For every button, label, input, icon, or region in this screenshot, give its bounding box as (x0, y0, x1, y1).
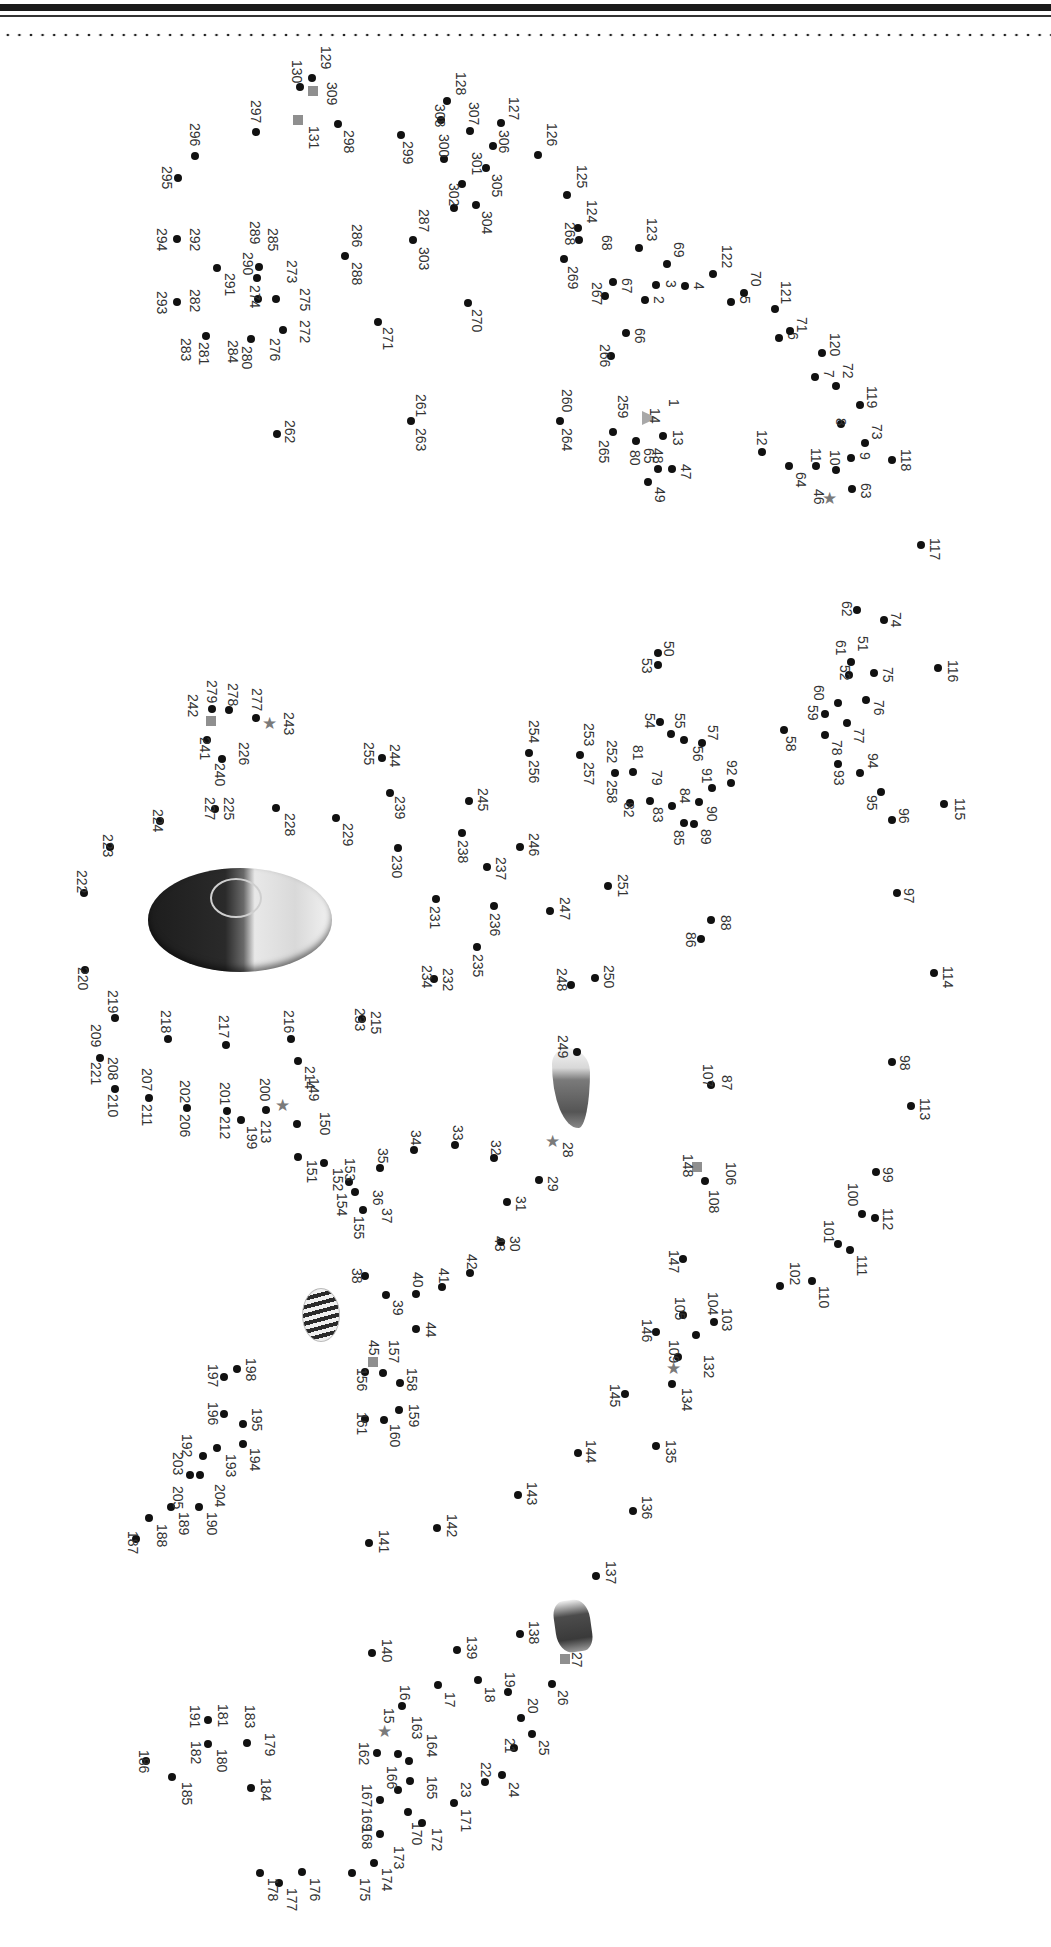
dot-point[interactable] (451, 1141, 459, 1149)
dot-point[interactable] (786, 327, 794, 335)
dot-point[interactable] (253, 274, 261, 282)
dot-point[interactable] (856, 401, 864, 409)
dot-point[interactable] (846, 1246, 854, 1254)
dot-point[interactable] (497, 1238, 505, 1246)
dot-point[interactable] (576, 751, 584, 759)
dot-point[interactable] (204, 1716, 212, 1724)
dot-point[interactable] (412, 1290, 420, 1298)
dot-point[interactable] (81, 966, 89, 974)
dot-point[interactable] (517, 1714, 525, 1722)
dot-point[interactable] (654, 649, 662, 657)
dot-point[interactable] (775, 334, 783, 342)
dot-point[interactable] (621, 1390, 629, 1398)
dot-point[interactable] (376, 1796, 384, 1804)
dot-point[interactable] (287, 1035, 295, 1043)
dot-point[interactable] (450, 1799, 458, 1807)
dot-point[interactable] (877, 788, 885, 796)
dot-point[interactable] (740, 289, 748, 297)
dot-point[interactable] (635, 244, 643, 252)
dot-point[interactable] (641, 296, 649, 304)
dot-point[interactable] (239, 1420, 247, 1428)
dot-point[interactable] (832, 382, 840, 390)
dot-point[interactable] (204, 1740, 212, 1748)
dot-point[interactable] (293, 1120, 301, 1128)
dot-point[interactable] (510, 1744, 518, 1752)
dot-point[interactable] (233, 1365, 241, 1373)
dot-point[interactable] (412, 1325, 420, 1333)
dot-point[interactable] (111, 1085, 119, 1093)
dot-point[interactable] (497, 119, 505, 127)
dot-point[interactable] (365, 1539, 373, 1547)
dot-point[interactable] (847, 658, 855, 666)
dot-point[interactable] (680, 819, 688, 827)
dot-point[interactable] (376, 1164, 384, 1172)
dot-point[interactable] (575, 236, 583, 244)
dot-point[interactable] (654, 465, 662, 473)
dot-point[interactable] (239, 1440, 247, 1448)
dot-point[interactable] (398, 1702, 406, 1710)
dot-point[interactable] (567, 981, 575, 989)
dot-point[interactable] (111, 1014, 119, 1022)
dot-point[interactable] (574, 224, 582, 232)
dot-point[interactable] (872, 1168, 880, 1176)
dot-point[interactable] (629, 768, 637, 776)
dot-point[interactable] (498, 1771, 506, 1779)
dot-point[interactable] (652, 1328, 660, 1336)
dot-point[interactable] (591, 974, 599, 982)
dot-point[interactable] (917, 541, 925, 549)
dot-point[interactable] (361, 1415, 369, 1423)
dot-point[interactable] (629, 1507, 637, 1515)
dot-point[interactable] (332, 814, 340, 822)
dot-point[interactable] (609, 428, 617, 436)
dot-point[interactable] (668, 802, 676, 810)
dot-point[interactable] (380, 1416, 388, 1424)
dot-point[interactable] (652, 281, 660, 289)
dot-point[interactable] (681, 282, 689, 290)
dot-point[interactable] (368, 1649, 376, 1657)
dot-point[interactable] (847, 454, 855, 462)
dot-point[interactable] (668, 465, 676, 473)
dot-point[interactable] (272, 295, 280, 303)
dot-point[interactable] (376, 1830, 384, 1838)
square-marker-icon[interactable] (692, 1162, 702, 1172)
dot-point[interactable] (472, 201, 480, 209)
dot-point[interactable] (237, 1116, 245, 1124)
dot-point[interactable] (255, 263, 263, 271)
dot-point[interactable] (275, 1879, 283, 1887)
dot-point[interactable] (856, 769, 864, 777)
dot-point[interactable] (382, 1291, 390, 1299)
dot-point[interactable] (458, 180, 466, 188)
dot-point[interactable] (294, 1153, 302, 1161)
dot-point[interactable] (440, 155, 448, 163)
dot-point[interactable] (386, 789, 394, 797)
dot-point[interactable] (466, 127, 474, 135)
dot-point[interactable] (930, 969, 938, 977)
dot-point[interactable] (853, 606, 861, 614)
dot-point[interactable] (406, 1777, 414, 1785)
dot-point[interactable] (132, 1535, 140, 1543)
dot-point[interactable] (893, 889, 901, 897)
dot-point[interactable] (359, 1206, 367, 1214)
dot-point[interactable] (776, 1282, 784, 1290)
dot-point[interactable] (296, 83, 304, 91)
dot-point[interactable] (727, 779, 735, 787)
dot-point[interactable] (254, 295, 262, 303)
dot-point[interactable] (252, 128, 260, 136)
dot-point[interactable] (106, 843, 114, 851)
dot-point[interactable] (644, 478, 652, 486)
dot-point[interactable] (632, 437, 640, 445)
dot-point[interactable] (220, 1373, 228, 1381)
dot-point[interactable] (394, 1750, 402, 1758)
dot-point[interactable] (211, 805, 219, 813)
dot-point[interactable] (679, 1311, 687, 1319)
dot-point[interactable] (202, 332, 210, 340)
dot-point[interactable] (808, 1277, 816, 1285)
dot-point[interactable] (252, 714, 260, 722)
dot-point[interactable] (668, 1380, 676, 1388)
dot-point[interactable] (858, 1210, 866, 1218)
dot-point[interactable] (709, 270, 717, 278)
dot-point[interactable] (697, 935, 705, 943)
dot-point[interactable] (888, 1058, 896, 1066)
dot-point[interactable] (320, 1159, 328, 1167)
dot-point[interactable] (504, 1688, 512, 1696)
